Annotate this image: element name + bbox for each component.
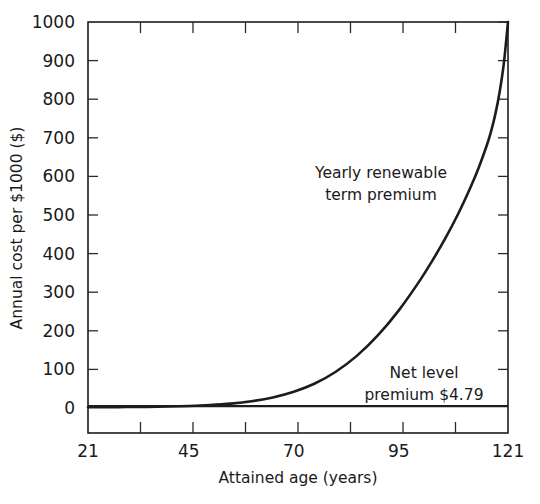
x-tick-label: 95 [388,441,410,461]
y-tick-label: 100 [43,359,75,379]
y-tick-label: 1000 [32,12,75,32]
y-tick-label: 600 [43,166,75,186]
chart-canvas: 01002003004005006007008009001000 2145709… [0,0,540,504]
x-axis-title: Attained age (years) [219,469,378,487]
chart-background [0,0,540,504]
x-tick-label: 21 [77,441,99,461]
y-tick-label: 900 [43,51,75,71]
y-tick-label: 300 [43,282,75,302]
y-axis-title: Annual cost per $1000 ($) [8,127,26,330]
chart-figure: 01002003004005006007008009001000 2145709… [0,0,540,504]
annotation-line-1: Yearly renewable [314,164,447,182]
x-tick-label: 45 [178,441,200,461]
annotation-line-2: premium $4.79 [364,386,483,404]
y-tick-label: 200 [43,321,75,341]
x-tick-label: 121 [492,441,524,461]
y-tick-label: 0 [64,398,75,418]
y-tick-label: 800 [43,89,75,109]
y-tick-label: 700 [43,128,75,148]
annotation-line-1: Net level [390,364,459,382]
y-tick-label: 500 [43,205,75,225]
y-tick-label: 400 [43,244,75,264]
x-tick-label: 70 [283,441,305,461]
annotation-line-2: term premium [325,186,436,204]
